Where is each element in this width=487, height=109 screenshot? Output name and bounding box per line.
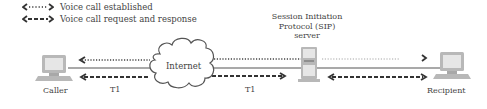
t1-label-left: T1 [110,85,120,94]
network-diagram [0,0,487,109]
caller-label: Caller [43,86,68,95]
caller-computer-icon [35,55,73,81]
sip-label-line1: Session Initiation [255,12,359,22]
t1-label-right: T1 [245,85,255,94]
recipient-computer-icon [433,52,471,79]
internet-label: Internet [166,61,201,71]
sip-server-label: Session Initiation Protocol (SIP) server [255,12,359,41]
recipient-label: Recipient [427,86,466,95]
sip-server-icon [298,47,320,82]
established-arrowhead-right [422,55,426,61]
sip-label-line2: Protocol (SIP) [255,22,359,32]
sip-label-line3: server [255,31,359,41]
